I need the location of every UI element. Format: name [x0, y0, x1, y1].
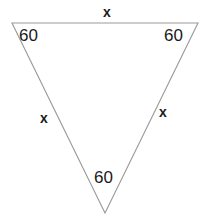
angle-label-bottom: 60: [94, 169, 113, 186]
side-label-right: x: [159, 105, 167, 119]
triangle-diagram: 60 60 60 x x x: [0, 0, 209, 223]
angle-label-top-right: 60: [164, 27, 183, 44]
angle-label-top-left: 60: [19, 27, 38, 44]
side-label-left: x: [40, 111, 48, 125]
side-label-top: x: [103, 5, 111, 19]
